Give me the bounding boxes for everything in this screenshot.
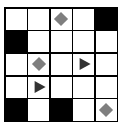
grid-cell[interactable] — [6, 54, 27, 75]
game-grid — [4, 7, 118, 122]
diamond-icon — [31, 57, 45, 71]
grid-cell[interactable] — [28, 99, 49, 120]
grid-cell[interactable] — [73, 31, 94, 52]
grid-cell[interactable] — [73, 99, 94, 120]
grid-cell[interactable] — [73, 54, 94, 75]
grid-cell[interactable] — [51, 54, 72, 75]
grid-cell[interactable] — [51, 77, 72, 98]
grid-cell[interactable] — [6, 77, 27, 98]
grid-cell[interactable] — [28, 77, 49, 98]
grid-cell[interactable] — [96, 54, 117, 75]
grid-cell[interactable] — [28, 9, 49, 30]
grid-cell[interactable] — [73, 77, 94, 98]
triangle-right-icon — [79, 58, 90, 70]
wall-cell[interactable] — [51, 99, 72, 120]
grid-cell[interactable] — [51, 9, 72, 30]
grid-cell[interactable] — [51, 31, 72, 52]
grid-cell[interactable] — [28, 31, 49, 52]
triangle-right-icon — [34, 81, 45, 93]
wall-cell[interactable] — [6, 31, 27, 52]
diamond-icon — [54, 12, 68, 26]
diamond-icon — [99, 103, 113, 117]
grid-cell[interactable] — [96, 99, 117, 120]
wall-cell[interactable] — [96, 9, 117, 30]
grid-cell[interactable] — [96, 31, 117, 52]
grid-cell[interactable] — [73, 9, 94, 30]
grid-cell[interactable] — [6, 9, 27, 30]
grid-cell[interactable] — [28, 54, 49, 75]
wall-cell[interactable] — [6, 99, 27, 120]
grid-cell[interactable] — [96, 77, 117, 98]
